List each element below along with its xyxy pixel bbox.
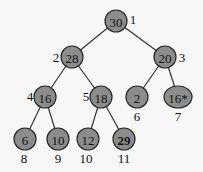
node-index-label: 5 bbox=[83, 89, 90, 104]
node-value: 18 bbox=[95, 91, 108, 106]
node-value: 20 bbox=[159, 51, 172, 66]
tree-node-1: 301 bbox=[105, 10, 136, 32]
node-index-label: 11 bbox=[118, 151, 131, 166]
node-index-label: 10 bbox=[80, 151, 93, 166]
edges bbox=[25, 21, 178, 139]
node-value: 6 bbox=[22, 133, 29, 148]
node-value: 10 bbox=[52, 133, 65, 148]
node-value: 16* bbox=[168, 91, 188, 106]
node-index-label: 7 bbox=[175, 109, 182, 124]
node-index-label: 1 bbox=[130, 12, 137, 27]
node-index-label: 2 bbox=[53, 50, 60, 65]
node-value: 12 bbox=[82, 133, 95, 148]
tree-node-7: 16*7 bbox=[164, 86, 192, 124]
tree-node-9: 109 bbox=[47, 128, 69, 166]
node-value: 16 bbox=[39, 91, 53, 106]
tree-node-4: 164 bbox=[27, 86, 56, 108]
tree-node-8: 68 bbox=[14, 128, 36, 166]
node-value: 30 bbox=[110, 15, 123, 30]
tree-node-2: 282 bbox=[53, 46, 83, 68]
tree-node-11: 2911 bbox=[113, 128, 135, 166]
node-index-label: 4 bbox=[27, 89, 34, 104]
node-index-label: 8 bbox=[21, 151, 28, 166]
tree-node-3: 203 bbox=[154, 46, 185, 68]
tree-node-6: 26 bbox=[126, 86, 148, 124]
node-index-label: 6 bbox=[134, 109, 141, 124]
node-value: 2 bbox=[134, 91, 141, 106]
node-value: 28 bbox=[66, 51, 79, 66]
nodes: 3012822031641852616*76810912102911 bbox=[14, 10, 192, 166]
tree-node-10: 1210 bbox=[77, 128, 99, 166]
heap-tree-diagram: 3012822031641852616*76810912102911 bbox=[0, 0, 203, 172]
node-index-label: 9 bbox=[55, 151, 62, 166]
node-value: 29 bbox=[118, 133, 132, 148]
tree-node-5: 185 bbox=[83, 86, 112, 108]
node-index-label: 3 bbox=[179, 50, 186, 65]
